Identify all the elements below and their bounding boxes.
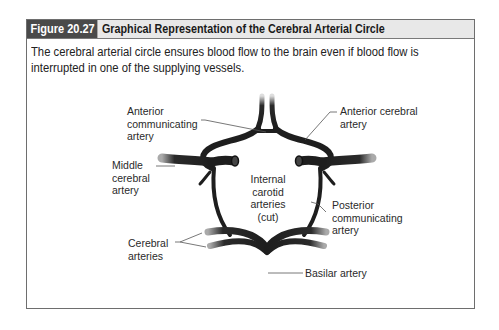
label-line: artery [112,184,150,197]
label-line: carotid [241,186,295,199]
label-line: (cut) [241,211,295,224]
label-line: Posterior [332,199,403,212]
label-line: artery [332,224,403,237]
label-line: Anterior [127,105,198,118]
label-middle-cerebral-artery: Middle cerebral artery [112,159,150,197]
label-line: Middle [112,159,150,172]
label-line: artery [340,118,418,131]
label-line: Cerebral [128,237,168,250]
label-line: Basilar artery [305,267,367,280]
label-line: communicating [332,212,403,225]
label-line: cerebral [112,172,150,185]
label-line: communicating [127,118,198,131]
label-posterior-communicating-artery: Posterior communicating artery [332,199,403,237]
label-cerebral-arteries: Cerebral arteries [128,237,168,262]
label-line: Anterior cerebral [340,105,418,118]
label-anterior-communicating-artery: Anterior communicating artery [127,105,198,143]
label-internal-carotid-arteries: Internal carotid arteries (cut) [241,173,295,223]
label-line: arteries [128,250,168,263]
label-line: arteries [241,198,295,211]
label-basilar-artery: Basilar artery [305,267,367,280]
label-line: Internal [241,173,295,186]
label-line: artery [127,130,198,143]
left-carotid-cut-end [232,156,239,166]
right-carotid-cut-end [296,156,303,166]
label-anterior-cerebral-artery: Anterior cerebral artery [340,105,418,130]
cerebral-arterial-circle-diagram [0,0,499,330]
